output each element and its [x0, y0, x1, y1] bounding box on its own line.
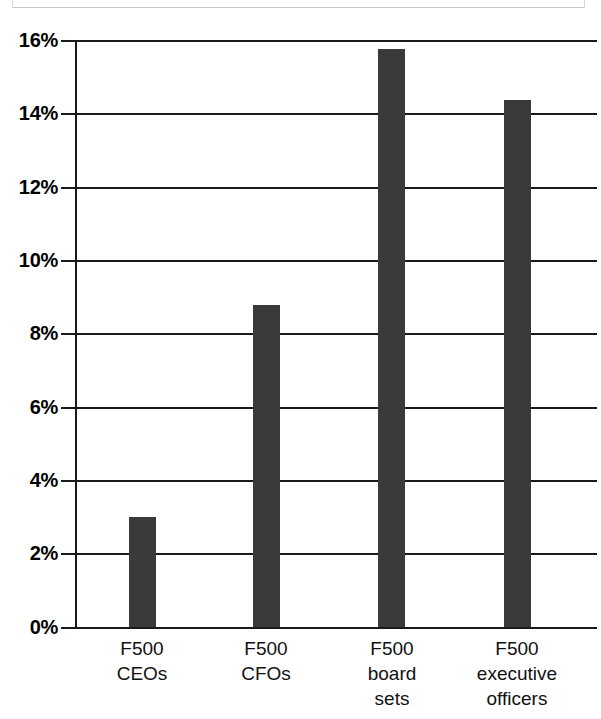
ytick-mark-8 — [61, 333, 75, 335]
xtick-label-f500-executive-officers-line1: F500 — [442, 636, 592, 661]
ytick-label-16: 16% — [2, 30, 58, 50]
xtick-label-f500-executive-officers: F500 executive officers — [442, 636, 592, 711]
ytick-label-6: 6% — [2, 397, 58, 417]
gridline-16 — [75, 40, 597, 42]
ytick-mark-4 — [61, 480, 75, 482]
ytick-label-12: 12% — [2, 177, 58, 197]
ytick-label-0: 0% — [2, 617, 58, 637]
y-axis-line — [75, 40, 77, 629]
bar-f500-ceos — [129, 517, 156, 627]
ytick-mark-14 — [61, 113, 75, 115]
ytick-label-8: 8% — [2, 323, 58, 343]
axis-x-baseline — [75, 627, 597, 629]
ytick-label-10: 10% — [2, 250, 58, 270]
y-axis-tick-labels: 16% 14% 12% 10% 8% 6% 4% 2% 0% — [0, 0, 58, 719]
xtick-label-f500-executive-officers-line2: executive — [442, 661, 592, 686]
bar-f500-board-sets — [378, 49, 405, 627]
plot-area — [75, 40, 597, 627]
ytick-mark-0 — [61, 627, 75, 629]
ytick-label-2: 2% — [2, 543, 58, 563]
ytick-mark-10 — [61, 260, 75, 262]
ytick-mark-2 — [61, 553, 75, 555]
bar-chart-figure: 16% 14% 12% 10% 8% 6% 4% 2% 0% F500 CEOs… — [0, 0, 601, 719]
ytick-mark-12 — [61, 187, 75, 189]
xtick-label-f500-executive-officers-line3: officers — [442, 686, 592, 711]
ytick-mark-16 — [61, 40, 75, 42]
bar-f500-executive-officers — [504, 100, 531, 627]
ytick-mark-6 — [61, 407, 75, 409]
ytick-label-14: 14% — [2, 103, 58, 123]
ytick-label-4: 4% — [2, 470, 58, 490]
bar-f500-cfos — [253, 305, 280, 627]
